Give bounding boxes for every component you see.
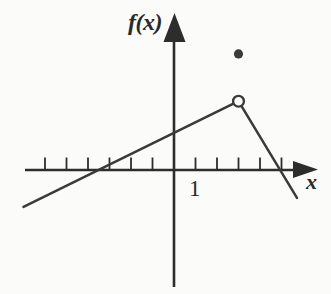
open-endpoint-marker — [233, 96, 244, 107]
y-axis-arrowhead-icon — [164, 13, 186, 42]
falling-branch-segment — [239, 101, 297, 198]
plot-canvas — [0, 0, 331, 294]
x-axis-label: x — [306, 171, 317, 193]
y-axis-label: f(x) — [128, 10, 162, 34]
x-tick-label-1: 1 — [189, 177, 201, 200]
rising-branch-segment — [24, 101, 239, 207]
filled-point-marker — [234, 49, 243, 58]
function-graph: f(x) x 1 — [0, 0, 331, 294]
